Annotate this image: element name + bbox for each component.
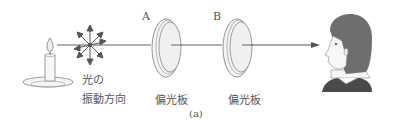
polarizer-b-letter: B xyxy=(213,10,221,23)
polarizer-b-label: 偏光板 xyxy=(228,91,261,107)
figure-caption: (a) xyxy=(189,108,203,119)
polarization-diagram xyxy=(0,0,397,125)
polarizer-b xyxy=(223,19,252,77)
polarizer-a-letter: A xyxy=(142,10,150,23)
source-label-line2: 振動方向 xyxy=(82,90,126,106)
arrow-head-icon xyxy=(311,42,320,48)
polarizer-a-label: 偏光板 xyxy=(155,91,188,107)
observer-face-icon xyxy=(322,14,372,92)
source-label-line1: 光の xyxy=(82,71,104,87)
polarizer-a xyxy=(152,19,181,77)
